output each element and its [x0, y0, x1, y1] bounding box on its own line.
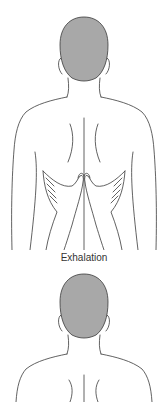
head-hair-icon	[60, 17, 108, 81]
figure-back-with-hands	[0, 0, 168, 250]
figure-caption: Exhalation	[0, 250, 168, 266]
head-hair-icon	[60, 274, 108, 338]
back-upper-illustration	[0, 268, 168, 402]
figure-back-upper	[0, 268, 168, 402]
back-hands-illustration	[0, 0, 168, 250]
